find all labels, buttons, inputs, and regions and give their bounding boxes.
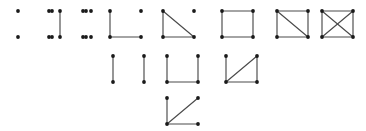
graph-vertex-br [351, 35, 355, 39]
graph-vertex-br [306, 35, 310, 39]
graph-vertex-tr [89, 9, 93, 13]
graph-vertex-bl [165, 122, 169, 126]
graph-vertex-tr [251, 9, 255, 13]
graph-vertex-bl [165, 80, 169, 84]
graph-star-k13-claw [165, 96, 200, 126]
graph-vertex-br [89, 35, 93, 39]
graph-vertex-bl [16, 35, 20, 39]
graph-vertex-tl [224, 54, 228, 58]
graph-vertex-bl [320, 35, 324, 39]
graph-vertex-bl [220, 35, 224, 39]
graph-vertex-tl [320, 9, 324, 13]
graph-vertex-tl [111, 54, 115, 58]
graph-vertex-bl [84, 35, 88, 39]
graph-vertex-tl [161, 9, 165, 13]
graph-edge-tl-br [163, 11, 194, 37]
graph-vertex-tl [84, 9, 88, 13]
graph-vertex-tl [58, 9, 62, 13]
graph-vertex-tl [50, 9, 54, 13]
graph-vertex-bl [50, 35, 54, 39]
graph-two-isolated-vertices [84, 9, 88, 39]
graph-vertex-bl [275, 35, 279, 39]
graph-vertex-tr [192, 9, 196, 13]
graph-vertex-br [142, 80, 146, 84]
graph-vertex-tl [165, 54, 169, 58]
graph-vertex-tr [196, 54, 200, 58]
graph-vertex-tl [16, 9, 20, 13]
graph-vertex-br [196, 80, 200, 84]
graph-vertex-br [196, 122, 200, 126]
graph-paw-graph-triangle-with-pendant [224, 54, 259, 84]
graph-single-edge-graph [58, 9, 93, 39]
graph-vertex-tl [108, 9, 112, 13]
graph-complete-graph-k4 [320, 9, 355, 39]
graph-edge-bl-tr [226, 56, 257, 82]
graph-empty-graph [16, 9, 51, 39]
graph-triangle-plus-isolated-vertex [161, 9, 196, 39]
graph-vertex-tr [306, 9, 310, 13]
graph-vertex-bl [58, 35, 62, 39]
graph-vertex-bl [224, 80, 228, 84]
graph-path-p4 [165, 54, 200, 84]
graph-cycle-c4 [220, 9, 255, 39]
graph-vertex-tr [142, 54, 146, 58]
graph-vertex-br [255, 80, 259, 84]
graph-vertex-tr [139, 9, 143, 13]
graph-diamond-graph [275, 9, 310, 39]
graph-edge-bl-tr [167, 98, 198, 124]
graph-vertex-bl [111, 80, 115, 84]
graph-vertex-tr [351, 9, 355, 13]
graph-empty-graph-repeat [50, 9, 85, 39]
graph-figure-canvas [0, 0, 366, 131]
graph-vertex-tl [220, 9, 224, 13]
graph-vertex-tr [255, 54, 259, 58]
graph-vertex-tr [196, 96, 200, 100]
graph-vertex-bl [108, 35, 112, 39]
graph-vertex-br [251, 35, 255, 39]
graph-vertex-bl [161, 35, 165, 39]
graph-vertex-br [139, 35, 143, 39]
graph-path-p3-plus-isolated-vertex [108, 9, 143, 39]
graph-figure-svg [0, 0, 366, 131]
graph-vertex-tl [165, 96, 169, 100]
graph-perfect-matching-two-edges [111, 54, 146, 84]
graph-vertex-tl [275, 9, 279, 13]
graph-vertex-br [192, 35, 196, 39]
graph-edge-tl-br [277, 11, 308, 37]
